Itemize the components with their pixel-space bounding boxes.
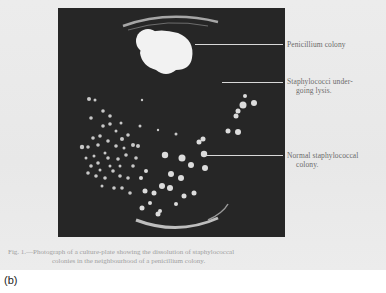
caption-line-2: colonies in the neighbourhood of a penic… bbox=[8, 257, 348, 266]
annotation-line: going lysis. bbox=[287, 86, 332, 95]
annotation-line: colony. bbox=[287, 160, 319, 169]
annotation-line: Normal staphylococcal bbox=[287, 151, 358, 160]
annotation-penicillium: Penicillium colony bbox=[287, 40, 346, 49]
petri-dish-illustration bbox=[58, 8, 285, 237]
penicillium-colony bbox=[136, 29, 192, 74]
figure-caption: Fig. 1.—Photograph of a culture-plate sh… bbox=[8, 248, 348, 266]
leader-line-lysis bbox=[222, 82, 283, 83]
annotation-normal-colony: Normal staphylococcal colony. bbox=[287, 151, 358, 169]
panel-label: (b) bbox=[4, 274, 17, 286]
culture-plate-photo bbox=[58, 8, 285, 237]
caption-line-1: Fig. 1.—Photograph of a culture-plate sh… bbox=[8, 248, 234, 256]
small-colonies bbox=[80, 97, 178, 195]
annotation-line: Staphylococci under- bbox=[287, 77, 353, 86]
leader-line-penicillium bbox=[195, 44, 283, 45]
annotation-lysis: Staphylococci under- going lysis. bbox=[287, 77, 353, 95]
leader-line-normal bbox=[205, 155, 283, 156]
annotation-line: Penicillium colony bbox=[287, 40, 346, 49]
